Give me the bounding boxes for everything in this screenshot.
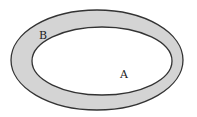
label-a: A — [119, 68, 129, 81]
nested-ellipse-diagram: B A — [0, 0, 197, 117]
label-b: B — [39, 29, 47, 42]
inner-region-a — [32, 27, 172, 95]
diagram-canvas: B A — [0, 0, 197, 117]
